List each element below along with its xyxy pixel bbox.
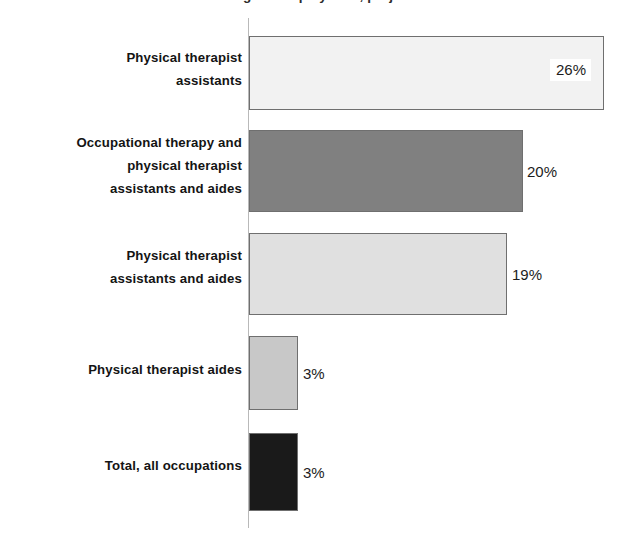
bar-category-label: Physical therapist aides	[88, 358, 242, 381]
bar-row: Occupational therapy and physical therap…	[0, 130, 640, 212]
bar-row: Physical therapist aides 3%	[0, 336, 640, 410]
bar-value-label: 3%	[303, 465, 325, 480]
bar-row: Physical therapist assistants 26%	[0, 36, 640, 110]
bar-category-label: Total, all occupations	[105, 454, 242, 477]
bar-rect: 26%	[249, 36, 604, 110]
bar-rect	[249, 233, 507, 315]
bar-value-label: 3%	[303, 366, 325, 381]
bar-category-label: Occupational therapy and physical therap…	[76, 131, 242, 200]
bar-chart: Percent change in employment, projected …	[0, 0, 640, 540]
bar-value-label: 20%	[527, 164, 557, 179]
bar-category-label: Physical therapist assistants and aides	[110, 244, 242, 290]
bar-value-label: 26%	[550, 59, 591, 81]
plot-area: Physical therapist assistants 26% Occupa…	[0, 0, 640, 540]
bar-rect	[249, 433, 298, 511]
bar-category-label: Physical therapist assistants	[126, 46, 242, 92]
bar-row: Total, all occupations 3%	[0, 433, 640, 511]
bar-rect	[249, 130, 523, 212]
bar-rect	[249, 336, 298, 410]
bar-row: Physical therapist assistants and aides …	[0, 233, 640, 315]
bar-value-label: 19%	[512, 267, 542, 282]
